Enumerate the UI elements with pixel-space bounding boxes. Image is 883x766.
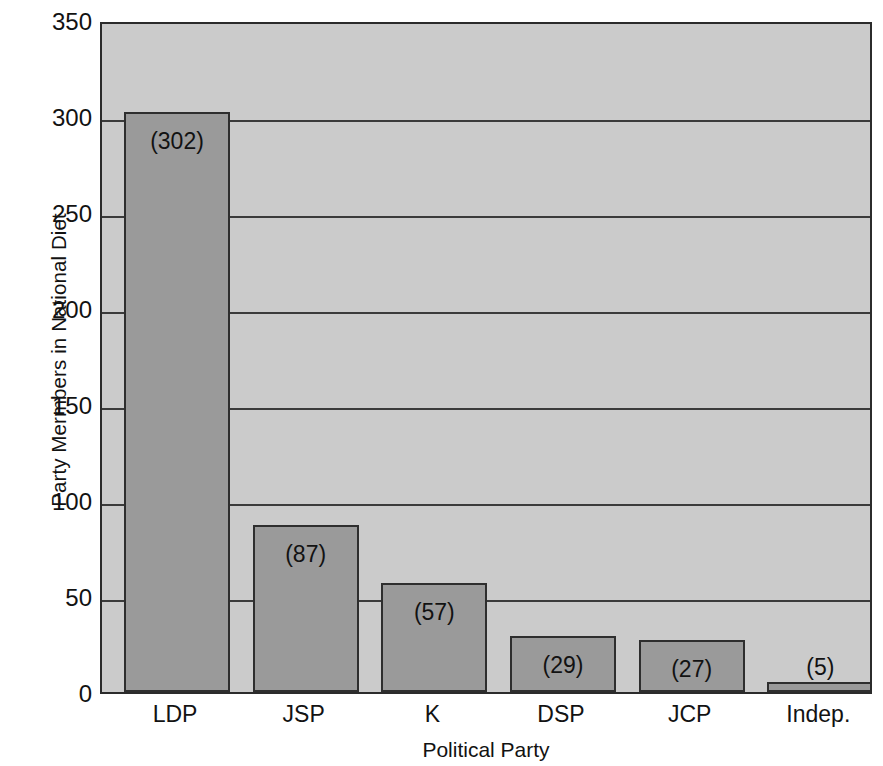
- bar-value-label: (302): [124, 130, 230, 153]
- bar-value-label: (29): [510, 654, 616, 677]
- bar-value-label: (87): [253, 543, 359, 566]
- y-tick-label: 250: [0, 202, 92, 226]
- x-tick-label: LDP: [122, 703, 228, 726]
- x-axis-title: Political Party: [100, 739, 872, 760]
- plot-area: (302)(87)(57)(29)(27)(5): [100, 22, 872, 694]
- x-tick-label: Indep.: [765, 703, 871, 726]
- x-tick-label: DSP: [508, 703, 614, 726]
- y-tick-label: 100: [0, 490, 92, 514]
- bar: [767, 682, 872, 692]
- bar-value-label: (57): [381, 601, 487, 624]
- bar-value-label: (27): [639, 658, 745, 681]
- y-tick-label: 50: [0, 586, 92, 610]
- x-tick-label: K: [379, 703, 485, 726]
- y-tick-label: 300: [0, 106, 92, 130]
- x-tick-label: JCP: [637, 703, 743, 726]
- bar: [124, 112, 230, 692]
- y-axis-tick-labels: 050100150200250300350: [0, 0, 92, 766]
- bar-chart-figure: Party Mermbers in National Diet 05010015…: [0, 0, 883, 766]
- y-tick-label: 150: [0, 394, 92, 418]
- y-tick-label: 350: [0, 10, 92, 34]
- y-tick-label: 200: [0, 298, 92, 322]
- bar-value-label: (5): [767, 656, 872, 679]
- x-tick-label: JSP: [251, 703, 357, 726]
- x-axis-tick-labels: LDPJSPKDSPJCPIndep.: [100, 703, 872, 737]
- y-tick-label: 0: [0, 682, 92, 706]
